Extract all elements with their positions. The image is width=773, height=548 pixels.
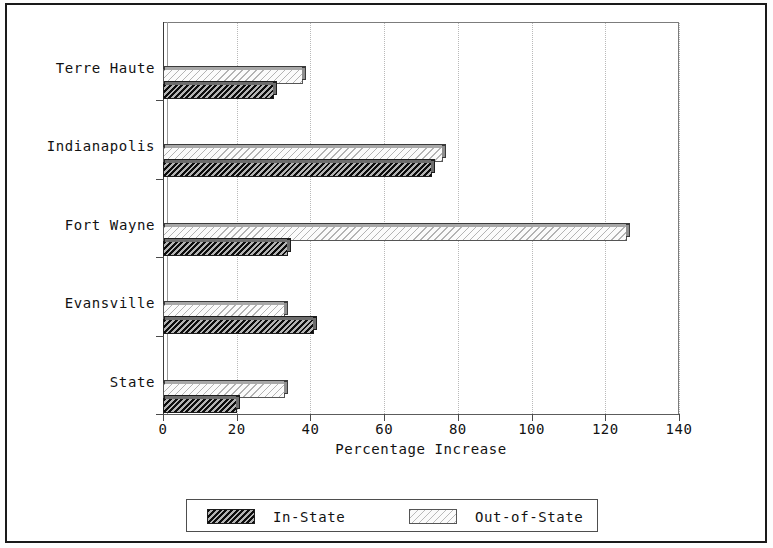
y-tick <box>156 336 164 337</box>
x-tick-label: 80 <box>449 421 467 437</box>
y-tick <box>156 100 164 101</box>
y-tick <box>156 257 164 258</box>
x-tick-label: 60 <box>375 421 393 437</box>
legend-label-in-state: In-State <box>273 509 345 525</box>
x-axis-title: Percentage Increase <box>163 441 679 457</box>
legend-entry-out-of-state: Out-of-State <box>409 500 583 533</box>
x-tick <box>384 414 385 421</box>
legend-label-out-of-state: Out-of-State <box>475 509 583 525</box>
category-label: Indianapolis <box>47 138 155 154</box>
x-tick-label: 100 <box>518 421 545 437</box>
x-tick <box>605 414 606 421</box>
y-tick <box>156 414 164 415</box>
x-tick-label: 140 <box>666 421 693 437</box>
category-label-layer: Terre HauteIndianapolisFort WayneEvansvi… <box>0 0 155 548</box>
category-label: State <box>110 374 155 390</box>
x-tick-label: 0 <box>159 421 168 437</box>
x-tick-label: 20 <box>228 421 246 437</box>
legend-swatch-in-state <box>207 509 255 524</box>
legend-entry-in-state: In-State <box>207 500 345 533</box>
x-tick-label: 40 <box>301 421 319 437</box>
x-tick-label: 120 <box>592 421 619 437</box>
category-label: Evansville <box>65 295 155 311</box>
chart-legend: In-State Out-of-State <box>186 499 598 532</box>
x-tick <box>163 414 164 421</box>
x-tick <box>679 414 680 421</box>
x-tick <box>458 414 459 421</box>
category-label: Fort Wayne <box>65 217 155 233</box>
chart-screenshot: 020406080100120140 Terre HauteIndianapol… <box>0 0 773 548</box>
y-tick <box>156 179 164 180</box>
x-tick <box>532 414 533 421</box>
x-tick <box>237 414 238 421</box>
x-tick <box>310 414 311 421</box>
legend-swatch-out-of-state <box>409 509 457 524</box>
category-label: Terre Haute <box>56 60 155 76</box>
